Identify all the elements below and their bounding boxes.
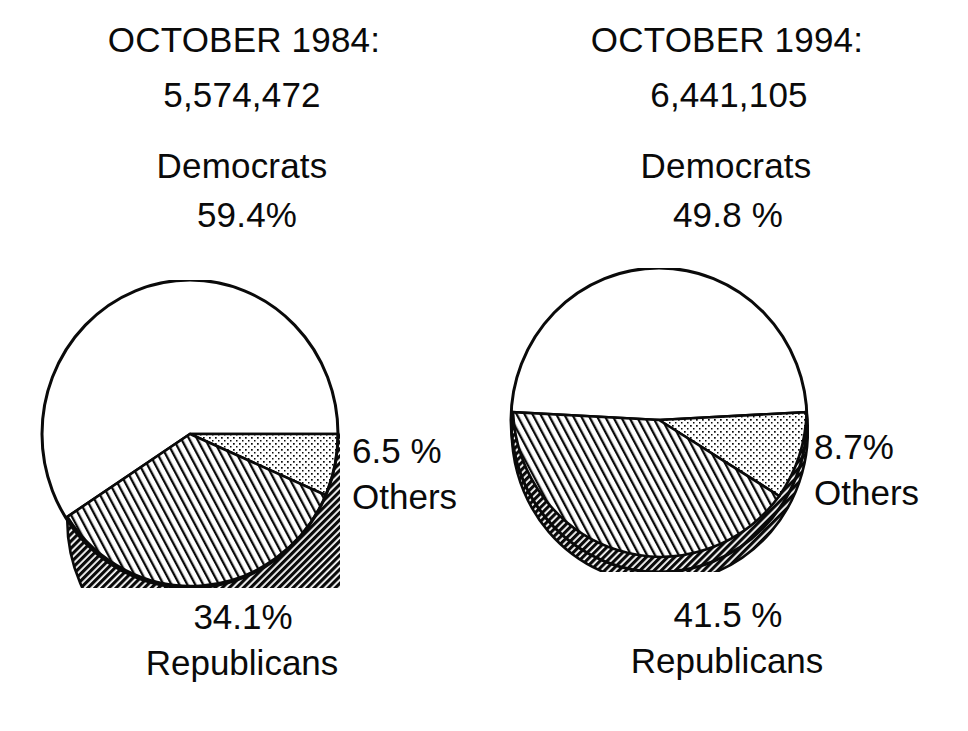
others-label: Others: [814, 474, 919, 512]
panel-total-registered: 5,574,472: [0, 77, 484, 112]
others-percent: 6.5 %: [352, 432, 457, 470]
panel-title: OCTOBER 1994:: [484, 22, 968, 57]
pie-svg-1984: [40, 280, 340, 588]
republicans-label: Republicans: [0, 644, 484, 682]
pie-chart-1994: [509, 268, 809, 572]
democrats-percent: 59.4%: [0, 197, 484, 232]
republicans-label: Republicans: [484, 642, 968, 680]
democrats-label: Democrats: [484, 148, 968, 183]
republicans-callout: 34.1% Republicans: [0, 598, 484, 682]
panel-october-1984: OCTOBER 1984: 5,574,472 Democrats 59.4%: [0, 0, 484, 731]
panel-heading: OCTOBER 1984: 5,574,472 Democrats 59.4%: [0, 22, 484, 232]
republicans-callout: 41.5 % Republicans: [484, 596, 968, 680]
democrats-percent: 49.8 %: [484, 197, 968, 232]
republicans-percent: 41.5 %: [484, 596, 968, 634]
republicans-percent: 34.1%: [0, 598, 484, 636]
pie-svg-1994: [509, 268, 809, 572]
pie-chart-figure: OCTOBER 1984: 5,574,472 Democrats 59.4%: [0, 0, 968, 731]
others-percent: 8.7%: [814, 428, 919, 466]
pie-chart-1984: [40, 280, 340, 588]
others-label: Others: [352, 478, 457, 516]
panel-title: OCTOBER 1984:: [0, 22, 484, 57]
panel-total-registered: 6,441,105: [484, 77, 968, 112]
others-callout: 6.5 % Others: [352, 432, 457, 516]
panel-heading: OCTOBER 1994: 6,441,105 Democrats 49.8 %: [484, 22, 968, 232]
others-callout: 8.7% Others: [814, 428, 919, 512]
democrats-label: Democrats: [0, 148, 484, 183]
panel-october-1994: OCTOBER 1994: 6,441,105 Democrats 49.8 %: [484, 0, 968, 731]
